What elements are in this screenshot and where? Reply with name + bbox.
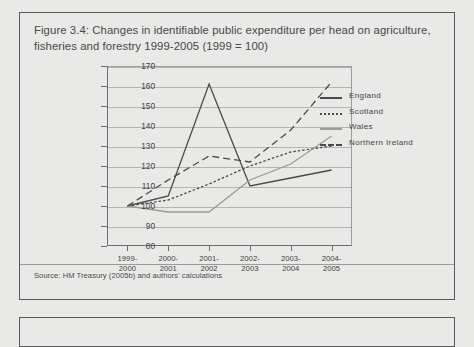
legend-swatch — [320, 128, 342, 130]
figure-title: Figure 3.4: Changes in identifiable publ… — [34, 23, 434, 54]
y-axis-tick-mark — [101, 106, 107, 107]
y-axis-tick-mark — [101, 226, 107, 227]
legend-swatch — [320, 144, 342, 146]
series-lines — [107, 66, 352, 246]
y-axis-tick-label: 100 — [121, 201, 155, 211]
x-axis-tick-mark — [127, 246, 128, 251]
legend-item-scotland: Scotland — [320, 107, 432, 123]
y-axis-tick-mark — [101, 146, 107, 147]
x-axis-tick-mark — [250, 246, 251, 251]
y-axis-tick-label: 80 — [121, 241, 155, 251]
y-axis-tick-mark — [101, 186, 107, 187]
legend-item-wales: Wales — [320, 122, 432, 138]
y-axis-tick-label: 130 — [121, 141, 155, 151]
series-line-england — [127, 84, 331, 206]
y-axis-tick-mark — [101, 206, 107, 207]
legend-swatch — [320, 97, 342, 99]
y-axis-tick-label: 110 — [121, 181, 155, 191]
y-axis-tick-label: 170 — [121, 61, 155, 71]
y-axis-tick-label: 160 — [121, 81, 155, 91]
y-axis-tick-label: 140 — [121, 121, 155, 131]
y-axis-tick-mark — [101, 66, 107, 67]
series-line-wales — [127, 136, 331, 212]
legend-label: England — [349, 91, 381, 100]
legend-label: Scotland — [349, 107, 383, 116]
x-axis-tick-mark — [291, 246, 292, 251]
legend-label: Wales — [349, 122, 373, 131]
x-axis-tick-mark — [209, 246, 210, 251]
legend-swatch — [320, 113, 342, 115]
y-axis-tick-label: 150 — [121, 101, 155, 111]
chart-area: 17016015014013012011010090801999-2000200… — [60, 58, 452, 263]
next-figure-panel — [19, 317, 455, 347]
chart-legend: EnglandScotlandWalesNorthern Ireland — [320, 91, 432, 153]
y-axis-tick-label: 120 — [121, 161, 155, 171]
legend-label: Northern Ireland — [349, 138, 413, 147]
x-axis-tick-mark — [332, 246, 333, 251]
series-line-northern-ireland — [127, 82, 331, 206]
y-axis-tick-mark — [101, 126, 107, 127]
legend-item-northern-ireland: Northern Ireland — [320, 138, 432, 154]
y-axis-tick-mark — [101, 166, 107, 167]
x-axis-tick-mark — [168, 246, 169, 251]
y-axis-tick-mark — [101, 246, 107, 247]
y-axis-tick-mark — [101, 86, 107, 87]
source-divider — [20, 264, 454, 265]
figure-source: Source: HM Treasury (2005b) and authors'… — [34, 271, 222, 280]
figure-panel: Figure 3.4: Changes in identifiable publ… — [19, 12, 455, 300]
legend-item-england: England — [320, 91, 432, 107]
y-axis-tick-label: 90 — [121, 221, 155, 231]
